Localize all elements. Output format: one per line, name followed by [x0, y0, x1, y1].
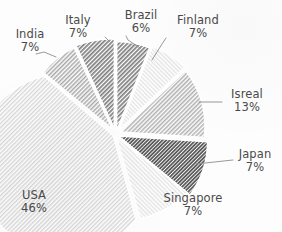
- pie-label-brazil-percent: 6%: [117, 22, 165, 35]
- pie-label-isreal-percent: 13%: [222, 101, 272, 114]
- pie-label-japan-percent: 7%: [233, 161, 277, 174]
- pie-label-usa-name: USA: [12, 189, 56, 202]
- pie-label-japan: Japan 7%: [233, 148, 277, 173]
- pie-label-isreal-name: Isreal: [222, 88, 272, 101]
- pie-label-italy-percent: 7%: [56, 27, 100, 40]
- pie-label-japan-name: Japan: [233, 148, 277, 161]
- pie-label-india: India 7%: [6, 28, 54, 53]
- pie-label-singapore: Singapore 7%: [157, 192, 229, 217]
- pie-label-finland: Finland 7%: [170, 14, 226, 39]
- pie-label-india-percent: 7%: [6, 41, 54, 54]
- pie-label-isreal: Isreal 13%: [222, 88, 272, 113]
- pie-label-india-name: India: [6, 28, 54, 41]
- pie-label-singapore-name: Singapore: [157, 192, 229, 205]
- pie-label-finland-percent: 7%: [170, 27, 226, 40]
- pie-label-singapore-percent: 7%: [157, 205, 229, 218]
- pie-label-usa: USA 46%: [12, 189, 56, 214]
- pie-label-finland-name: Finland: [170, 14, 226, 27]
- pie-label-italy-name: Italy: [56, 14, 100, 27]
- pie-label-usa-percent: 46%: [12, 202, 56, 215]
- pie-label-brazil: Brazil 6%: [117, 9, 165, 34]
- pie-label-italy: Italy 7%: [56, 14, 100, 39]
- pie-label-brazil-name: Brazil: [117, 9, 165, 22]
- pie-chart: India 7% Italy 7% Brazil 6% Finland 7% I…: [0, 0, 282, 232]
